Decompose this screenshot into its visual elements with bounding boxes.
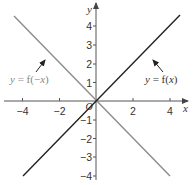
x-axis-label: x: [182, 102, 188, 114]
label-f-neg-x: y = f(−x): [9, 73, 49, 86]
line-f-x: [23, 15, 180, 176]
line-f-neg-x: [14, 16, 170, 176]
y-tick-label: 3: [86, 39, 92, 51]
y-tick-label: 4: [86, 20, 92, 32]
y-tick-label: 2: [86, 58, 92, 70]
chart: −4 −2 2 4 4 3 2 1 −1 −2 −3 −4 x y O y = …: [0, 0, 193, 185]
x-tick-label: −2: [54, 105, 66, 117]
annotation-arrow-f-x: [153, 60, 163, 72]
y-axis-label: y: [86, 3, 92, 15]
annotation-arrow-f-neg-x: [36, 60, 45, 72]
label-f-x: y = f(x): [144, 73, 178, 86]
x-tick-label: 2: [130, 105, 136, 117]
y-tick-label: −3: [80, 151, 92, 163]
x-tick-label: 4: [167, 105, 173, 117]
x-tick-label: −4: [17, 105, 29, 117]
y-tick-label: 1: [86, 77, 92, 89]
y-tick-label: −4: [80, 170, 92, 182]
y-tick-label: −2: [80, 133, 92, 145]
